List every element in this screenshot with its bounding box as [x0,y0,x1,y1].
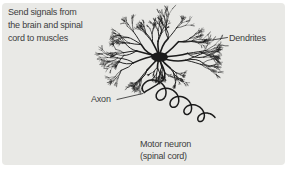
caption-line: (spinal cord) [140,150,191,162]
description-text: Send signals from the brain and spinal c… [8,6,108,45]
axon-coil-drawing [142,62,215,122]
description-line: the brain and spinal [8,19,108,32]
description-line: Send signals from [8,6,108,19]
figure-caption: Motor neuron (spinal cord) [140,138,191,162]
dendrites-label: Dendrites [229,33,266,43]
caption-line: Motor neuron [140,138,191,150]
figure-root: Send signals from the brain and spinal c… [0,0,287,172]
description-line: cord to muscles [8,32,108,45]
axon-pointer-line [117,94,143,100]
axon-label: Axon [91,94,111,104]
